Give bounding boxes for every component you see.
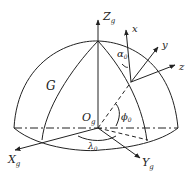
- labels: Zg x y z α0 G Og ϕ0 λ0 Xg Yg: [7, 10, 185, 171]
- label-alpha: α0: [117, 48, 128, 60]
- label-local-x: x: [132, 23, 138, 34]
- axis-yg: [98, 128, 140, 158]
- label-surface-g: G: [46, 79, 56, 93]
- hemisphere-diagram: Zg x y z α0 G Og ϕ0 λ0 Xg Yg: [0, 0, 192, 177]
- label-zg: Zg: [102, 10, 116, 25]
- diagram-canvas: Zg x y z α0 G Og ϕ0 λ0 Xg Yg: [0, 0, 192, 177]
- label-yg: Yg: [142, 156, 154, 171]
- alpha-arc: [122, 64, 128, 67]
- label-origin: Og: [82, 111, 96, 126]
- label-lambda: λ0: [87, 141, 98, 152]
- phi-arc: [116, 104, 119, 126]
- label-phi: ϕ0: [121, 111, 132, 123]
- hemisphere-outline: [14, 41, 178, 128]
- projection-dashed: [98, 128, 148, 140]
- label-local-y: y: [161, 39, 168, 50]
- label-xg: Xg: [7, 153, 21, 168]
- label-local-z: z: [178, 61, 185, 72]
